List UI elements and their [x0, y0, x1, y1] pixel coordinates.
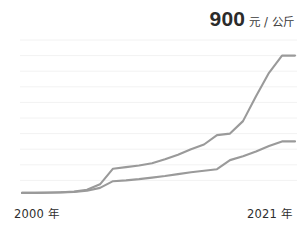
chart-data-lines [22, 56, 295, 193]
chart-svg [0, 0, 302, 239]
data-line-upper-line [22, 56, 295, 193]
chart-plot-area [0, 0, 302, 239]
x-axis-label-end: 2021 年 [247, 205, 292, 221]
chart-container: 900 元 / 公斤 2000 年 2021 年 [0, 0, 302, 239]
chart-gridlines [20, 40, 297, 180]
x-axis-label-start: 2000 年 [14, 205, 59, 221]
